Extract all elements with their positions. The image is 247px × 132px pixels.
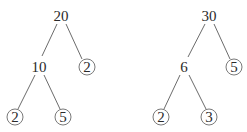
- node-label: 3: [205, 109, 213, 125]
- leaf-node-5: 5: [226, 59, 242, 75]
- edges: [164, 24, 230, 109]
- node-label: 2: [157, 109, 165, 125]
- node-label: 2: [83, 59, 91, 75]
- edge-20-10: [42, 24, 57, 56]
- leaf-node-2-right: 2: [79, 59, 95, 75]
- node-label: 10: [32, 59, 47, 75]
- node-label: 5: [59, 109, 67, 125]
- edge-6-3: [189, 75, 206, 109]
- edges: [18, 24, 82, 109]
- edge-10-2: [18, 75, 35, 109]
- node-6: 6: [180, 59, 188, 75]
- edge-10-5: [44, 75, 60, 109]
- leaf-node-5: 5: [55, 109, 71, 125]
- node-label: 30: [202, 8, 217, 24]
- edge-30-5: [214, 24, 230, 59]
- left-tree: 20 10 2 2 5: [7, 8, 95, 125]
- leaf-node-2-left: 2: [7, 109, 23, 125]
- leaf-node-2: 2: [153, 109, 169, 125]
- leaf-node-3: 3: [201, 109, 217, 125]
- node-label: 20: [54, 8, 69, 24]
- node-10: 10: [32, 59, 47, 75]
- edge-6-2: [164, 75, 180, 109]
- node-label: 6: [180, 59, 188, 75]
- node-20: 20: [54, 8, 69, 24]
- edge-30-6: [188, 24, 205, 57]
- diagram-canvas: 20 10 2 2 5: [0, 0, 247, 132]
- node-30: 30: [202, 8, 217, 24]
- edge-20-2: [66, 24, 82, 59]
- right-tree: 30 6 5 2 3: [153, 8, 242, 125]
- node-label: 5: [230, 59, 238, 75]
- node-label: 2: [11, 109, 19, 125]
